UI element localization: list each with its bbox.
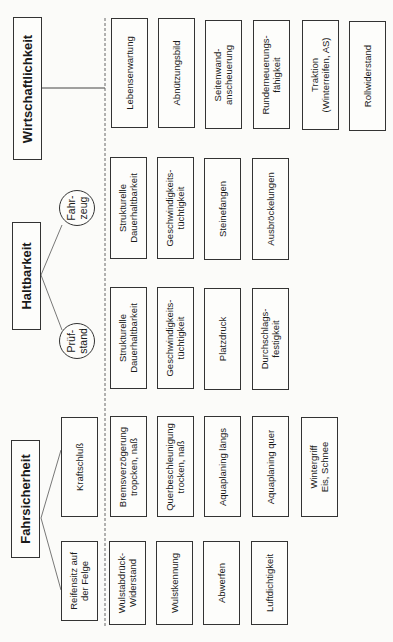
item-pruefstand-geschwindigkeit: Geschwindigkeits- tüchtigkeit [157,287,194,389]
item-abwerfen: Abwerfen [203,541,240,625]
item-steinefangen: Steinefangen [204,158,241,260]
header-haltbarkeit: Haltbarkeit [12,222,41,330]
item-seitenwandanscheuerung: Seitenwand- anscheuerung [205,20,242,129]
item-pruefstand-dauerhaltbarkeit: Strukturelle Dauerhaltbarkeit [110,287,147,389]
item-wulstkennung: Wulstkennung [156,541,193,625]
item-durchschlagsfestigkeit: Durchschlags- festigkeit [252,288,289,390]
item-lebenserwartung: Lebenserwartung [111,18,148,128]
item-traktion: Traktion (Winterreifen, AS) [302,20,339,130]
header-label: Fahrsicherheit [18,454,33,544]
header-label: Haltbarkeit [19,242,34,309]
header-wirtschaftlichkeit: Wirtschaftlichkeit [13,17,42,160]
item-fahrzeug-dauerhaltbarkeit: Strukturelle Dauerhaltbarkeit [110,157,147,259]
item-querbeschleunigung: Querbeschleunigung trocken, naß [157,416,194,517]
item-aquaplaning-laengs: Aquaplaning längs [204,416,241,517]
item-fahrzeug-geschwindigkeit: Geschwindigkeits- tüchtigkeit [157,157,194,259]
item-rollwiderstand: Rollwiderstand [349,21,386,131]
branch-fahrzeug: Fahr- zeug [59,190,95,226]
header-label: Wirtschaftlichkeit [20,34,35,142]
branch-pruefstand: Prüf- stand [59,323,95,359]
item-aquaplaning-quer: Aquaplaning quer [252,416,289,517]
item-runderneuerungsfaehigkeit: Runderneuerungs- fähigkeit [253,20,290,129]
branch-reifensitz: Reifensitz auf der Felge [61,541,98,621]
item-bremsverzoegerung: Bremsverzögerung tropcken, naß [110,416,147,517]
header-fahrsicherheit: Fahrsicherheit [11,440,40,558]
item-abnuetzungsbild: Abnützungsbild [158,18,195,128]
item-platzdruck: Platzdruck [204,288,241,390]
branch-kraftschluss: Kraftschluß [61,417,98,517]
item-wulstabdrueck: Wulstabdrück- Widerstand [109,541,146,625]
item-ausbroeckelungen: Ausbröckelungen [252,158,289,260]
item-wintergriff: Wintergriff Eis, Schnee [301,417,338,517]
item-luftdichtigkeit: Luftdichtigkeit [251,541,288,625]
